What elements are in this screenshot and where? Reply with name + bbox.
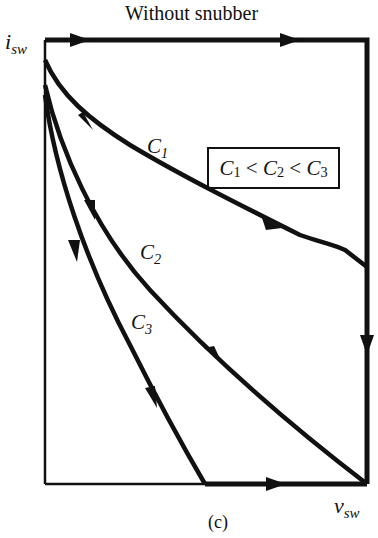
curve-c3 bbox=[45, 95, 205, 484]
diagram-title: Without snubber bbox=[125, 2, 258, 25]
curve-label-c1-symbol: C bbox=[147, 134, 161, 158]
curve-label-c3: C3 bbox=[131, 310, 152, 335]
arrow-right-icon bbox=[360, 335, 374, 355]
arrow-c2-a-icon bbox=[84, 200, 95, 220]
arrow-c3-b-icon bbox=[145, 386, 157, 408]
ineq-op2: < bbox=[284, 156, 306, 181]
ineq-s3: 3 bbox=[320, 164, 327, 181]
y-axis-label: isw bbox=[5, 29, 27, 55]
arrow-bottom-icon bbox=[266, 477, 286, 491]
curve-label-c3-symbol: C bbox=[131, 310, 145, 334]
x-axis-label: vsw bbox=[334, 493, 360, 519]
ineq-s2: 2 bbox=[277, 164, 284, 181]
arrow-c3-a-icon bbox=[68, 240, 80, 262]
switching-trajectory-diagram bbox=[0, 0, 378, 538]
ineq-c2: C bbox=[263, 156, 277, 181]
y-axis-subscript: sw bbox=[11, 41, 27, 57]
curve-label-c3-subscript: 3 bbox=[145, 321, 152, 337]
x-axis-subscript: sw bbox=[344, 505, 360, 521]
capacitance-inequality-box: C1 < C2 < C3 bbox=[207, 147, 340, 189]
arrow-c2-b-icon bbox=[204, 346, 222, 363]
x-axis-symbol: v bbox=[334, 493, 344, 518]
arrow-top-2-icon bbox=[280, 33, 300, 47]
ineq-c1: C bbox=[219, 156, 233, 181]
curve-label-c1-subscript: 1 bbox=[161, 145, 168, 161]
ineq-s1: 1 bbox=[233, 164, 240, 181]
curve-label-c2: C2 bbox=[140, 240, 161, 265]
curve-label-c2-subscript: 2 bbox=[154, 251, 161, 267]
curve-c2 bbox=[45, 85, 367, 484]
curve-label-c2-symbol: C bbox=[140, 240, 154, 264]
arrow-top-1-icon bbox=[70, 33, 90, 47]
curve-label-c1: C1 bbox=[147, 134, 168, 159]
figure-caption: (c) bbox=[208, 512, 228, 533]
ineq-op1: < bbox=[241, 156, 263, 181]
ineq-c3: C bbox=[306, 156, 320, 181]
